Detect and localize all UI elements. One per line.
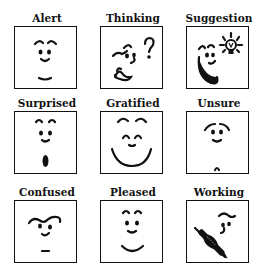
face-label: Gratified bbox=[94, 97, 172, 109]
pen-icon bbox=[196, 227, 231, 262]
working-face-icon bbox=[186, 200, 249, 263]
confused-face-icon bbox=[14, 200, 77, 263]
gratified-face-icon bbox=[100, 111, 163, 174]
surprised-face-icon bbox=[14, 111, 77, 174]
face-label: Confused bbox=[8, 186, 86, 198]
unsure-face-icon bbox=[186, 111, 249, 174]
alert-face-icon bbox=[14, 26, 77, 89]
face-label: Alert bbox=[8, 12, 86, 24]
face-label: Surprised bbox=[8, 97, 86, 109]
face-label: Unsure bbox=[180, 97, 258, 109]
pleased-face-icon bbox=[100, 200, 163, 263]
thinking-face-icon bbox=[100, 26, 163, 89]
suggestion-face-icon bbox=[186, 26, 249, 89]
face-label: Working bbox=[180, 186, 258, 198]
face-label: Thinking bbox=[94, 12, 172, 24]
face-label: Suggestion bbox=[180, 12, 258, 24]
face-label: Pleased bbox=[94, 186, 172, 198]
